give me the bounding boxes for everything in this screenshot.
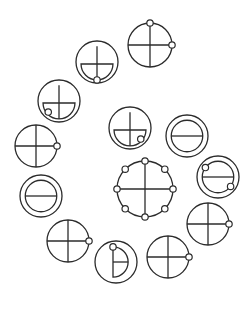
symbol-cross-eight-icon <box>114 158 176 220</box>
node-dot-icon <box>54 143 60 149</box>
node-dot-icon <box>226 221 232 227</box>
node-dot-icon <box>186 254 192 260</box>
symbol-cross-icon <box>147 236 192 278</box>
node-dot-icon <box>122 206 128 212</box>
symbol-diagram <box>0 0 252 309</box>
node-dot-icon <box>114 186 120 192</box>
node-dot-icon <box>94 77 100 83</box>
symbol-bowl-icon <box>38 80 80 122</box>
node-dot-icon <box>138 136 144 142</box>
node-dot-icon <box>147 20 153 26</box>
symbol-cross-icon <box>187 203 232 245</box>
node-dot-icon <box>142 158 148 164</box>
node-dot-icon <box>110 244 116 250</box>
node-dot-icon <box>169 42 175 48</box>
node-dot-icon <box>202 164 208 170</box>
node-dot-icon <box>162 166 168 172</box>
symbol-cross-icon <box>15 125 60 167</box>
node-dot-icon <box>227 183 233 189</box>
symbol-double-bar-icon <box>20 175 62 217</box>
node-dot-icon <box>86 238 92 244</box>
symbol-cross-icon <box>128 20 175 67</box>
node-dot-icon <box>162 206 168 212</box>
node-dot-icon <box>142 214 148 220</box>
symbol-cross-icon <box>47 220 92 262</box>
symbol-d-shape-icon <box>95 241 137 283</box>
node-dot-icon <box>122 166 128 172</box>
symbol-double-bar-icon <box>166 115 208 157</box>
symbol-double-bar-icon <box>197 156 239 198</box>
diagram-svg <box>0 0 252 309</box>
node-dot-icon <box>45 109 51 115</box>
node-dot-icon <box>170 186 176 192</box>
symbol-bowl-icon <box>76 41 118 83</box>
symbol-bowl-icon <box>109 107 151 149</box>
